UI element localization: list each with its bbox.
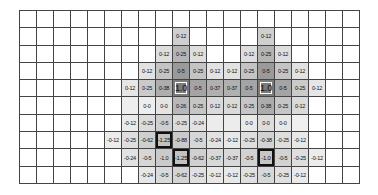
- grid-cell: [190, 11, 207, 28]
- cell-value: 0-0: [143, 103, 150, 109]
- grid-cell: -0-25: [139, 115, 156, 132]
- grid-cell: [54, 149, 71, 166]
- grid-cell: -0-24: [122, 149, 139, 166]
- grid-cell: [88, 115, 105, 132]
- grid-cell: [105, 115, 122, 132]
- grid-cell: -0-37: [207, 149, 224, 166]
- grid-cell: [20, 80, 37, 97]
- cell-value: -0-25: [124, 137, 136, 143]
- cell-value: -1.0: [160, 155, 169, 161]
- grid-cell: 0-12: [173, 28, 190, 45]
- grid-cell: [88, 132, 105, 149]
- cell-value: -0-12: [226, 172, 238, 178]
- grid-cell: [20, 149, 37, 166]
- grid-cell: [122, 97, 139, 114]
- grid-cell: 0-37: [224, 80, 241, 97]
- grid-cell: 0-12: [122, 80, 139, 97]
- grid-cell: -0-62: [139, 132, 156, 149]
- cell-value: 1.0: [260, 83, 272, 93]
- cell-value: 0-12: [261, 33, 271, 39]
- cell-value: -0-25: [192, 172, 204, 178]
- cell-value: -0-12: [107, 137, 119, 143]
- grid-cell: [71, 28, 88, 45]
- cell-value: 0-5: [194, 85, 201, 91]
- grid-cell: [20, 46, 37, 63]
- grid-cell: 0-0: [258, 115, 275, 132]
- grid-cell: 0-25: [190, 63, 207, 80]
- grid-cell: -0-12: [309, 149, 326, 166]
- cell-value: -0-37: [209, 155, 221, 161]
- grid-cell: [326, 11, 343, 28]
- grid-cell: [326, 80, 343, 97]
- grid-cell: [37, 63, 54, 80]
- grid-cell: 0-25: [241, 97, 258, 114]
- grid-cell: [54, 97, 71, 114]
- grid-cell: 0-25: [275, 97, 292, 114]
- grid-cell: 0-25: [190, 97, 207, 114]
- grid-cell: [292, 11, 309, 28]
- grid-cell: [20, 167, 37, 184]
- grid-cell: [88, 63, 105, 80]
- cell-value: 0-25: [295, 85, 305, 91]
- grid-cell: -0-12: [292, 167, 309, 184]
- grid-cell: 0-5: [173, 63, 190, 80]
- grid-cell: [258, 11, 275, 28]
- grid-cell: [309, 46, 326, 63]
- grid-cell: [37, 11, 54, 28]
- cell-value: -0-5: [245, 155, 254, 161]
- cell-value: 0-12: [227, 103, 237, 109]
- cell-value: 0-12: [125, 85, 135, 91]
- grid-cell: [71, 149, 88, 166]
- cell-value: -0-12: [311, 155, 323, 161]
- grid-cell: [343, 63, 360, 80]
- grid-cell: -0-25: [241, 132, 258, 149]
- peak-cell: 1.0: [258, 80, 275, 97]
- grid-cell: [71, 167, 88, 184]
- grid-cell: 0-37: [207, 80, 224, 97]
- cell-value: 0-38: [159, 85, 169, 91]
- grid-cell: [343, 11, 360, 28]
- grid-cell: [326, 28, 343, 45]
- grid-cell: 0-12: [139, 63, 156, 80]
- cell-value: -0-25: [294, 155, 306, 161]
- cell-value: -0-12: [294, 137, 306, 143]
- grid-cell: [326, 149, 343, 166]
- cell-value: -0-25: [243, 137, 255, 143]
- grid-cell: [88, 11, 105, 28]
- grid-cell: [105, 149, 122, 166]
- grid-cell: 0-25: [258, 46, 275, 63]
- cell-value: -0-5: [160, 120, 169, 126]
- trough-cell: -1.25: [173, 149, 190, 166]
- grid-cell: [156, 11, 173, 28]
- grid-cell: [207, 46, 224, 63]
- grid-cell: 0-5: [190, 80, 207, 97]
- grid-cell: -0-5: [258, 167, 275, 184]
- grid-cell: 0-25: [292, 80, 309, 97]
- cell-value: 0-37: [227, 85, 237, 91]
- grid-cell: [105, 11, 122, 28]
- grid-cell: [343, 115, 360, 132]
- grid-cell: 0-12: [241, 46, 258, 63]
- cell-value: -0-12: [124, 120, 136, 126]
- grid-cell: 0-12: [224, 63, 241, 80]
- grid-cell: [37, 167, 54, 184]
- grid-cell: [275, 28, 292, 45]
- cell-value: 0-12: [295, 103, 305, 109]
- grid-cell: -0-12: [207, 167, 224, 184]
- grid-cell: [20, 28, 37, 45]
- grid-cell: -0-25: [275, 167, 292, 184]
- grid-cell: 0-12: [258, 28, 275, 45]
- grid-cell: 0-0: [139, 97, 156, 114]
- grid-cell: 0-12: [190, 46, 207, 63]
- trough-cell: -1.25: [156, 132, 173, 149]
- value-grid: 0-120-120-120-250-120-120-250-120-120-25…: [19, 10, 360, 184]
- grid-cell: 0-12: [309, 80, 326, 97]
- grid-cell: [54, 167, 71, 184]
- grid-cell: 0-26: [173, 97, 190, 114]
- grid-cell: [309, 11, 326, 28]
- grid-cell: -0-12: [224, 167, 241, 184]
- grid-cell: [54, 132, 71, 149]
- grid-cell: 0-25: [139, 80, 156, 97]
- grid-cell: [224, 46, 241, 63]
- grid-cell: [309, 115, 326, 132]
